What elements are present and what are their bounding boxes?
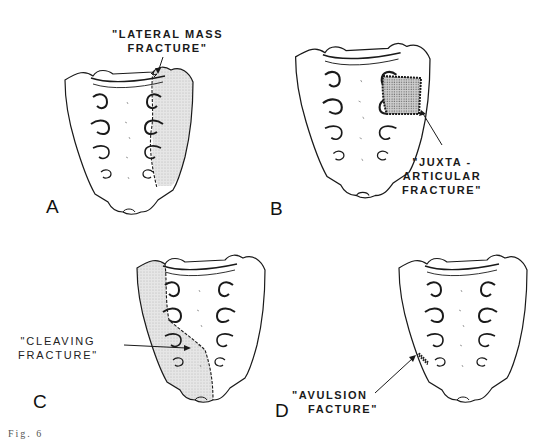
label-b-line2: ARTICULAR bbox=[402, 169, 482, 183]
label-a-line2: FRACTURE" bbox=[112, 41, 223, 55]
label-b-line1: "JUXTA - bbox=[402, 155, 482, 169]
label-b-line3: FRACTURE" bbox=[402, 183, 482, 197]
label-lateral-mass-fracture: "LATERAL MASS FRACTURE" bbox=[112, 27, 223, 55]
panel-letter-a: A bbox=[46, 196, 59, 218]
panel-letter-d: D bbox=[275, 400, 289, 422]
panel-a-sacrum bbox=[65, 67, 193, 214]
label-d-line2: FACTURE" bbox=[308, 402, 378, 416]
label-c-line2: FRACTURE" bbox=[18, 348, 98, 362]
label-c-line1: "CLEAVING bbox=[18, 334, 98, 348]
panel-d-sacrum bbox=[399, 255, 527, 402]
figure-caption: Fig. 6 bbox=[8, 428, 43, 439]
label-a-line1: "LATERAL MASS bbox=[112, 27, 223, 41]
label-cleaving-fracture: "CLEAVING FRACTURE" bbox=[18, 334, 98, 362]
panel-letter-c: C bbox=[33, 391, 47, 413]
label-avulsion-fracture: "AVULSION FACTURE" bbox=[292, 388, 378, 416]
panel-c-sacrum bbox=[137, 255, 265, 402]
panel-letter-b: B bbox=[270, 198, 283, 220]
label-juxta-articular-fracture: "JUXTA - ARTICULAR FRACTURE" bbox=[402, 155, 482, 197]
label-d-line1: "AVULSION bbox=[292, 388, 378, 402]
